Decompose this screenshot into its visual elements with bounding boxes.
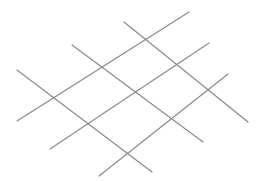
rising-line-3 <box>99 74 228 176</box>
rising-line-2 <box>50 43 209 149</box>
falling-line-1 <box>17 70 152 172</box>
oblique-grid-diagram <box>0 0 263 181</box>
rising-line-1 <box>17 12 189 121</box>
